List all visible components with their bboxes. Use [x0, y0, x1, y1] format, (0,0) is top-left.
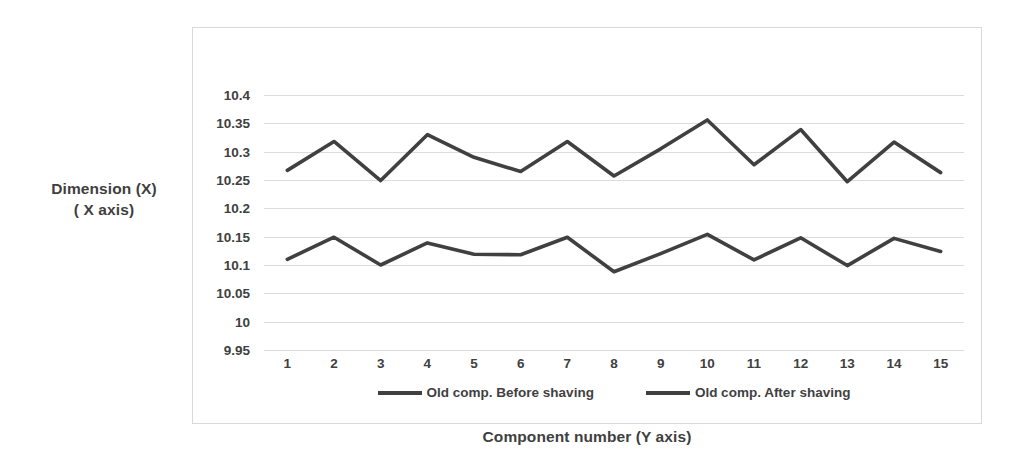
x-tick-label: 15 — [933, 356, 948, 371]
x-axis-tick-labels: 123456789101112131415 — [264, 0, 964, 380]
chart-figure: Dimension (X) ( X axis) 10.410.3510.310.… — [0, 0, 1028, 464]
y-tick-label: 10.2 — [224, 201, 250, 216]
y-tick-label: 10.1 — [224, 258, 250, 273]
legend-item[interactable]: Old comp. Before shaving — [378, 385, 594, 400]
x-tick-label: 5 — [470, 356, 478, 371]
x-tick-label: 1 — [284, 356, 292, 371]
y-tick-label: 10.05 — [216, 286, 250, 301]
legend-line-icon — [646, 391, 690, 395]
x-tick-label: 6 — [517, 356, 525, 371]
x-tick-label: 9 — [657, 356, 665, 371]
y-axis-tick-labels: 10.410.3510.310.2510.210.1510.110.05109.… — [196, 95, 258, 350]
legend-item[interactable]: Old comp. After shaving — [646, 385, 851, 400]
y-tick-label: 10.15 — [216, 229, 250, 244]
y-tick-label: 10.3 — [224, 144, 250, 159]
x-tick-label: 13 — [840, 356, 855, 371]
chart-legend: Old comp. Before shavingOld comp. After … — [264, 385, 964, 400]
legend-line-icon — [378, 391, 422, 395]
x-tick-label: 14 — [886, 356, 901, 371]
x-tick-label: 2 — [330, 356, 338, 371]
x-tick-label: 10 — [700, 356, 715, 371]
x-tick-label: 4 — [424, 356, 432, 371]
y-tick-label: 10.35 — [216, 116, 250, 131]
x-tick-label: 12 — [793, 356, 808, 371]
x-tick-label: 3 — [377, 356, 385, 371]
y-tick-label: 10.4 — [224, 88, 250, 103]
x-tick-label: 7 — [564, 356, 572, 371]
x-axis-title: Component number (Y axis) — [192, 428, 982, 446]
x-tick-label: 8 — [610, 356, 618, 371]
legend-label: Old comp. After shaving — [695, 385, 851, 400]
y-axis-title-line-2: ( X axis) — [18, 199, 190, 220]
y-axis-title: Dimension (X) ( X axis) — [18, 178, 190, 221]
y-tick-label: 10.25 — [216, 173, 250, 188]
y-tick-label: 9.95 — [224, 343, 250, 358]
y-axis-title-line-1: Dimension (X) — [18, 178, 190, 199]
x-tick-label: 11 — [747, 356, 761, 371]
y-tick-label: 10 — [235, 314, 250, 329]
legend-label: Old comp. Before shaving — [427, 385, 594, 400]
